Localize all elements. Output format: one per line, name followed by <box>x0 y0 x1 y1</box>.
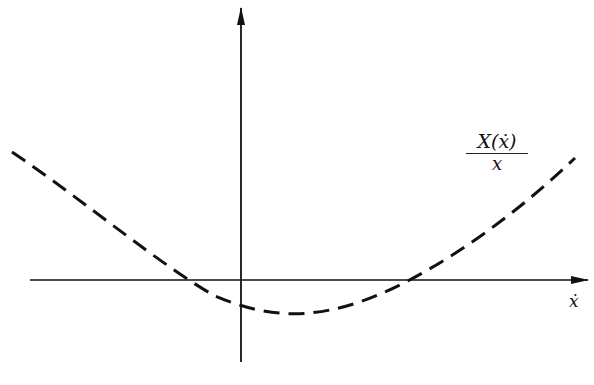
figure-caption <box>210 378 470 385</box>
curve-label: X(ẋ) x <box>462 131 532 173</box>
curve-label-denominator: x <box>462 155 532 173</box>
dashed-parabola-curve <box>12 152 575 314</box>
x-axis-label: ẋ <box>569 291 579 311</box>
diagram-canvas <box>0 0 594 385</box>
curve-label-numerator: X(ẋ) <box>462 131 532 151</box>
